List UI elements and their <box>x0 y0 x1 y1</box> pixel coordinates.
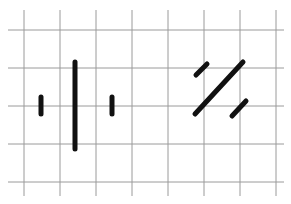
diagram-canvas <box>0 0 291 204</box>
